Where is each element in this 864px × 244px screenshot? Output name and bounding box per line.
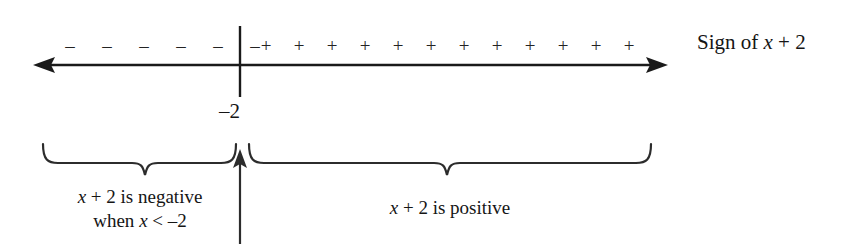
pos-line1-variable: x: [390, 197, 398, 218]
positive-region-caption: x + 2 is positive: [249, 196, 651, 220]
negative-region-caption: x + 2 is negative when x < –2: [43, 185, 237, 233]
sign-chart-figure: – – – – – – + + + + + + + + + + + + Sign…: [0, 0, 864, 244]
neg-line2-suffix: < –2: [148, 210, 187, 231]
pos-line1-suffix: + 2 is positive: [398, 197, 510, 218]
neg-line2-variable: x: [139, 210, 147, 231]
neg-line1-suffix: + 2 is negative: [86, 186, 202, 207]
negative-caption-line-1: x + 2 is negative: [43, 185, 237, 209]
left-underbrace: [43, 144, 236, 175]
right-underbrace: [249, 144, 651, 175]
neg-line2-prefix: when: [93, 210, 139, 231]
neg-line1-variable: x: [78, 186, 86, 207]
negative-caption-line-2: when x < –2: [43, 209, 237, 233]
positive-caption-line-1: x + 2 is positive: [249, 196, 651, 220]
